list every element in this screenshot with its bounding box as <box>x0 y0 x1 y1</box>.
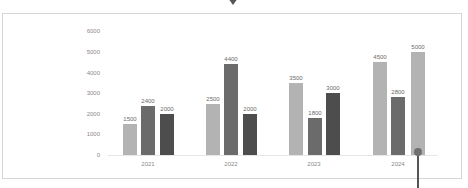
hover-pointer-line <box>417 155 419 188</box>
data-label: 2000 <box>235 106 265 112</box>
y-tick-1000: 1000 <box>70 131 100 137</box>
bar-2022-series-3[interactable] <box>243 114 257 155</box>
data-label: 2000 <box>152 106 182 112</box>
data-label: 4500 <box>365 54 395 60</box>
x-tick-2023: 2023 <box>294 161 334 167</box>
hover-marker-dot <box>414 148 422 156</box>
x-tick-2024: 2024 <box>378 161 418 167</box>
bar-2024-series-1[interactable] <box>373 62 387 155</box>
data-label: 3000 <box>318 85 348 91</box>
bar-2023-series-2[interactable] <box>308 118 322 155</box>
bar-2022-series-1[interactable] <box>206 104 220 155</box>
y-tick-3000: 3000 <box>70 90 100 96</box>
bar-2024-series-2[interactable] <box>391 97 405 155</box>
data-label: 2400 <box>133 98 163 104</box>
bar-2021-series-2[interactable] <box>141 106 155 155</box>
x-tick-2021: 2021 <box>128 161 168 167</box>
data-label: 1800 <box>300 110 330 116</box>
bar-2023-series-1[interactable] <box>289 83 303 155</box>
y-tick-4000: 4000 <box>70 70 100 76</box>
data-label: 1500 <box>115 116 145 122</box>
bar-2021-series-3[interactable] <box>160 114 174 155</box>
x-axis-baseline <box>108 155 438 156</box>
y-tick-2000: 2000 <box>70 111 100 117</box>
data-label: 4400 <box>216 56 246 62</box>
y-tick-5000: 5000 <box>70 49 100 55</box>
data-label: 2500 <box>198 96 228 102</box>
data-label: 3500 <box>281 75 311 81</box>
bar-2024-series-3-highlighted[interactable] <box>411 52 425 155</box>
bar-2021-series-1[interactable] <box>123 124 137 155</box>
bar-chart: 6000 5000 4000 3000 2000 1000 0 1500 240… <box>0 0 468 188</box>
x-tick-2022: 2022 <box>211 161 251 167</box>
y-tick-6000: 6000 <box>70 28 100 34</box>
bar-2023-series-3[interactable] <box>326 93 340 155</box>
y-tick-0: 0 <box>70 152 100 158</box>
data-label: 2800 <box>383 89 413 95</box>
data-label: 5000 <box>403 44 433 50</box>
